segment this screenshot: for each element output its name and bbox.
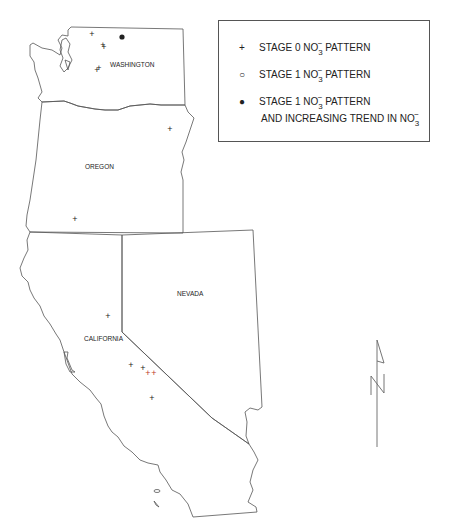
island — [154, 490, 160, 493]
sites: + + + + + + + + + + + + + — [72, 29, 172, 403]
marker-plus: + — [105, 311, 110, 321]
label-washington: WASHINGTON — [110, 61, 155, 68]
sf-bay — [64, 352, 75, 372]
plus-icon: + — [237, 42, 247, 53]
marker-plus: + — [167, 124, 172, 134]
marker-plus-red: + — [145, 368, 150, 378]
marker-plus: + — [89, 29, 94, 39]
marker-plus: + — [128, 360, 133, 370]
marker-plus-red: + — [151, 368, 156, 378]
filled-circle-icon: ● — [237, 96, 247, 107]
legend: + STAGE 0 NO3− PATTERN ○ STAGE 1 NO3− PA… — [218, 20, 430, 142]
marker-plus: + — [96, 63, 101, 73]
open-circle-icon: ○ — [237, 69, 247, 80]
puget-islands — [60, 38, 72, 72]
label-california: CALIFORNIA — [84, 335, 124, 342]
state-washington — [30, 27, 185, 110]
island — [154, 501, 159, 507]
north-arrow-icon — [371, 340, 384, 447]
state-california — [20, 232, 258, 517]
marker-plus: + — [149, 393, 154, 403]
marker-filled-circle — [119, 34, 124, 39]
marker-plus: + — [72, 214, 77, 224]
state-nevada — [122, 230, 262, 444]
label-oregon: OREGON — [85, 163, 114, 170]
marker-plus: + — [101, 42, 106, 52]
label-nevada: NEVADA — [177, 290, 204, 297]
